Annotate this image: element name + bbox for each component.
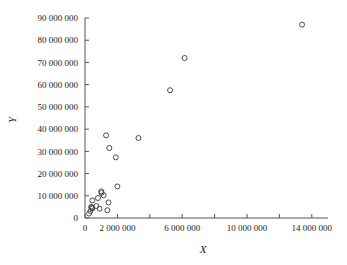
data-point — [105, 208, 110, 213]
x-axis-title: X — [199, 243, 208, 255]
axis-lines — [85, 18, 328, 218]
data-point — [113, 155, 118, 160]
y-tick-label: 20 000 000 — [38, 169, 79, 179]
data-point — [107, 146, 112, 151]
y-tick-label: 60 000 000 — [38, 80, 79, 90]
data-point — [182, 56, 187, 61]
data-point — [97, 206, 102, 211]
y-tick-label: 30 000 000 — [38, 147, 79, 157]
x-axis-tick-marks — [85, 214, 312, 218]
data-point — [104, 133, 109, 138]
data-point — [136, 136, 141, 141]
y-axis-tick-marks — [85, 18, 89, 218]
y-tick-label: 50 000 000 — [38, 102, 79, 112]
data-point — [106, 200, 111, 205]
x-tick-label: 0 — [83, 223, 88, 233]
plot-canvas: 010 000 00020 000 00030 000 00040 000 00… — [0, 0, 347, 265]
y-axis-title: Y — [6, 115, 18, 123]
x-tick-label: 10 000 000 — [227, 223, 268, 233]
data-point — [95, 196, 100, 201]
y-tick-label: 90 000 000 — [38, 13, 79, 23]
x-tick-label: 6 000 000 — [164, 223, 201, 233]
x-tick-label: 2 000 000 — [99, 223, 136, 233]
data-point — [90, 198, 95, 203]
data-point — [168, 88, 173, 93]
y-tick-label: 80 000 000 — [38, 35, 79, 45]
data-point-markers — [87, 22, 305, 216]
y-tick-label: 40 000 000 — [38, 124, 79, 134]
y-tick-label: 10 000 000 — [38, 191, 79, 201]
y-tick-label: 70 000 000 — [38, 58, 79, 68]
data-point — [300, 22, 305, 27]
data-point — [115, 184, 120, 189]
y-tick-label: 0 — [74, 213, 79, 223]
x-axis-tick-labels: 02 000 0006 000 00010 000 00014 000 000 — [83, 223, 333, 233]
y-axis-tick-labels: 010 000 00020 000 00030 000 00040 000 00… — [38, 13, 79, 223]
x-tick-label: 14 000 000 — [292, 223, 333, 233]
scatter-chart-figure: 010 000 00020 000 00030 000 00040 000 00… — [0, 0, 347, 265]
